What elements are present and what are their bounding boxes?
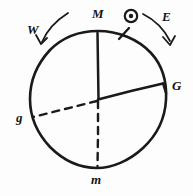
radius-to-m [98, 101, 99, 166]
label-west: W [27, 22, 39, 38]
west-arrow-curve-icon [42, 13, 68, 42]
radius-to-g [33, 101, 97, 117]
label-top-M: M [92, 6, 104, 22]
label-left-g: g [16, 110, 23, 126]
label-east: E [162, 9, 171, 25]
sun-symbol-dot-icon [129, 14, 133, 18]
label-right-G: G [172, 78, 181, 94]
radius-to-G [98, 84, 163, 100]
radius-to-M [98, 33, 99, 99]
diagram-canvas: M m G g W E [0, 0, 193, 196]
label-bottom-m: m [91, 172, 101, 188]
